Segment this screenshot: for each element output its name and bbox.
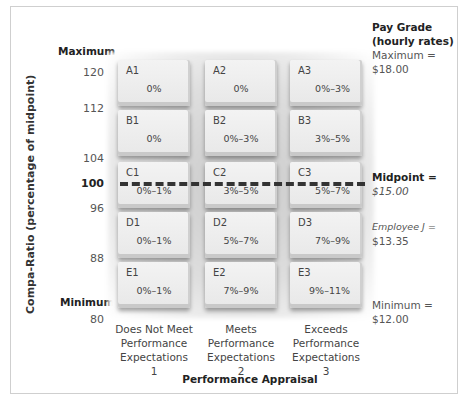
cell-code: B2 xyxy=(213,115,226,126)
y-axis-title: Compa-Ratio (percentage of midpoint) xyxy=(24,114,42,314)
y-tick: 120 xyxy=(83,66,104,79)
cell-rate: 5%–7% xyxy=(205,235,277,246)
grid-cell: B20%–3% xyxy=(205,110,277,156)
cell-code: C2 xyxy=(213,167,226,178)
cell-rate: 9%–11% xyxy=(309,285,350,296)
cell-code: A2 xyxy=(213,65,226,76)
x-cat-line: Performance xyxy=(109,336,199,350)
grid-cell: A20% xyxy=(205,60,277,106)
cell-code: E1 xyxy=(126,267,139,278)
cell-rate: 0%–1% xyxy=(118,285,190,296)
cell-code: C1 xyxy=(126,167,139,178)
max-label: Maximum = xyxy=(372,48,454,62)
y-ticks: 120 112 104 100 96 88 80 xyxy=(70,0,104,409)
cell-rate: 0%–1% xyxy=(118,235,190,246)
cell-rate: 7%–9% xyxy=(315,235,350,246)
cell-code: A1 xyxy=(126,65,139,76)
x-axis-title: Performance Appraisal xyxy=(150,373,350,385)
grid-cell: D10%–1% xyxy=(118,212,190,258)
cell-rate: 5%–7% xyxy=(315,185,350,196)
grid-cell: A10% xyxy=(118,60,190,106)
cell-code: D2 xyxy=(213,217,227,228)
cell-rate: 0%–1% xyxy=(118,185,190,196)
x-category-3: Exceeds Performance Expectations 3 xyxy=(281,322,371,378)
minimum-info: Minimum = $12.00 xyxy=(372,298,433,326)
cell-rate: 3%–5% xyxy=(205,185,277,196)
cell-rate: 0%–3% xyxy=(315,83,350,94)
min-label: Minimum = xyxy=(372,298,433,312)
y-tick: 112 xyxy=(83,102,104,115)
x-cat-line: Expectations xyxy=(196,350,286,364)
cell-code: B3 xyxy=(298,115,311,126)
grid-cell: B10% xyxy=(118,110,190,156)
midpoint-info: Midpoint = $15.00 xyxy=(372,170,437,198)
x-category-1: Does Not Meet Performance Expectations 1 xyxy=(109,322,199,378)
cell-rate: 0% xyxy=(205,83,277,94)
y-tick: 96 xyxy=(90,202,104,215)
x-cat-line: Expectations xyxy=(281,350,371,364)
cell-code: B1 xyxy=(126,115,139,126)
x-cat-line: Meets xyxy=(196,322,286,336)
x-cat-line: Exceeds xyxy=(281,322,371,336)
cell-code: D3 xyxy=(298,217,312,228)
cell-code: E2 xyxy=(213,267,226,278)
grid-cell: E10%–1% xyxy=(118,262,190,308)
cell-rate: 0% xyxy=(118,133,190,144)
employee-label: Employee J = xyxy=(372,220,436,234)
min-value: $12.00 xyxy=(372,312,433,326)
x-cat-line: Does Not Meet xyxy=(109,322,199,336)
y-tick: 80 xyxy=(90,313,104,326)
pay-grade-title: Pay Grade xyxy=(372,20,454,34)
x-cat-line: Performance xyxy=(281,336,371,350)
cell-rate: 7%–9% xyxy=(205,285,277,296)
grid-cell: E27%–9% xyxy=(205,262,277,308)
cell-code: E3 xyxy=(298,267,311,278)
midpoint-label: Midpoint = xyxy=(372,170,437,184)
x-cat-line: Expectations xyxy=(109,350,199,364)
max-value: $18.00 xyxy=(372,62,454,76)
cell-rate: 0%–3% xyxy=(205,133,277,144)
grid-cell: D37%–9% xyxy=(290,212,362,258)
y-tick: 100 xyxy=(81,177,104,190)
pay-grade-header: Pay Grade (hourly rates) Maximum = $18.0… xyxy=(372,20,454,76)
grid-cell: D25%–7% xyxy=(205,212,277,258)
grid-cell: A30%–3% xyxy=(290,60,362,106)
pay-grade-subtitle: (hourly rates) xyxy=(372,34,454,48)
cell-code: A3 xyxy=(298,65,311,76)
midpoint-line xyxy=(120,182,365,186)
x-category-2: Meets Performance Expectations 2 xyxy=(196,322,286,378)
cell-rate: 3%–5% xyxy=(315,133,350,144)
employee-info: Employee J = $13.35 xyxy=(372,220,436,248)
x-cat-line: Performance xyxy=(196,336,286,350)
grid-cell: B33%–5% xyxy=(290,110,362,156)
y-tick: 88 xyxy=(90,252,104,265)
employee-value: $13.35 xyxy=(372,234,436,248)
grid-cell: E39%–11% xyxy=(290,262,362,308)
midpoint-value: $15.00 xyxy=(372,184,437,198)
cell-code: D1 xyxy=(126,217,140,228)
y-tick: 104 xyxy=(83,152,104,165)
cell-rate: 0% xyxy=(118,83,190,94)
cell-code: C3 xyxy=(298,167,311,178)
